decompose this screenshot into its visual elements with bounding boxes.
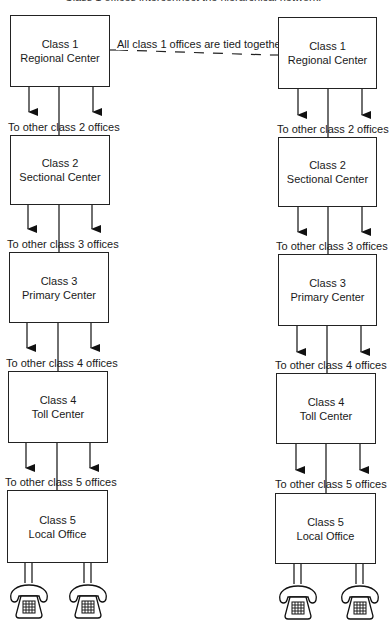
telephone-icon <box>70 585 107 618</box>
office-class: Class 1 <box>42 37 79 51</box>
office-class: Class 1 <box>309 39 346 53</box>
branch-label: To other class 3 offices <box>276 240 388 252</box>
office-name: Primary Center <box>22 288 96 302</box>
office-class2-sectional-center: Class 2 Sectional Center <box>10 135 110 205</box>
office-class5-local-office: Class 5 Local Office <box>275 493 376 564</box>
office-class4-toll-center: Class 4 Toll Center <box>276 373 376 444</box>
office-class3-primary-center: Class 3 Primary Center <box>9 252 109 323</box>
office-class: Class 5 <box>39 513 76 527</box>
office-class1-regional-center: Class 1 Regional Center <box>278 17 377 89</box>
office-name: Sectional Center <box>287 172 368 186</box>
branch-label: To other class 2 offices <box>8 121 120 133</box>
branch-label: To other class 4 offices <box>6 357 118 369</box>
office-name: Local Office <box>297 529 355 543</box>
branch-label: To other class 2 offices <box>277 123 389 135</box>
office-class2-sectional-center: Class 2 Sectional Center <box>278 137 377 207</box>
office-name: Regional Center <box>288 53 368 67</box>
telephone-icon <box>342 586 379 619</box>
office-class: Class 3 <box>41 274 78 288</box>
office-class5-local-office: Class 5 Local Office <box>7 490 108 563</box>
office-name: Toll Center <box>300 409 353 423</box>
office-class: Class 5 <box>307 515 344 529</box>
telephone-icon <box>280 586 317 619</box>
office-name: Toll Center <box>32 407 85 421</box>
office-class: Class 4 <box>308 395 345 409</box>
office-class3-primary-center: Class 3 Primary Center <box>278 254 377 326</box>
office-class: Class 2 <box>42 156 79 170</box>
telephone-icon <box>11 585 48 618</box>
tie-label: All class 1 offices are tied together. <box>116 38 288 50</box>
office-class4-toll-center: Class 4 Toll Center <box>8 371 108 443</box>
office-name: Primary Center <box>291 290 365 304</box>
office-class: Class 3 <box>309 276 346 290</box>
office-class: Class 4 <box>40 393 77 407</box>
branch-label: To other class 5 offices <box>5 476 117 488</box>
branch-label: To other class 3 offices <box>7 238 119 250</box>
office-name: Local Office <box>29 527 87 541</box>
branch-label: To other class 5 offices <box>275 478 387 490</box>
office-class: Class 2 <box>309 158 346 172</box>
top-caption-cut: Class 1 offices interconnect the hierarc… <box>0 0 386 3</box>
office-class1-regional-center: Class 1 Regional Center <box>10 15 110 87</box>
office-name: Regional Center <box>20 51 100 65</box>
branch-label: To other class 4 offices <box>275 359 387 371</box>
office-name: Sectional Center <box>19 170 100 184</box>
